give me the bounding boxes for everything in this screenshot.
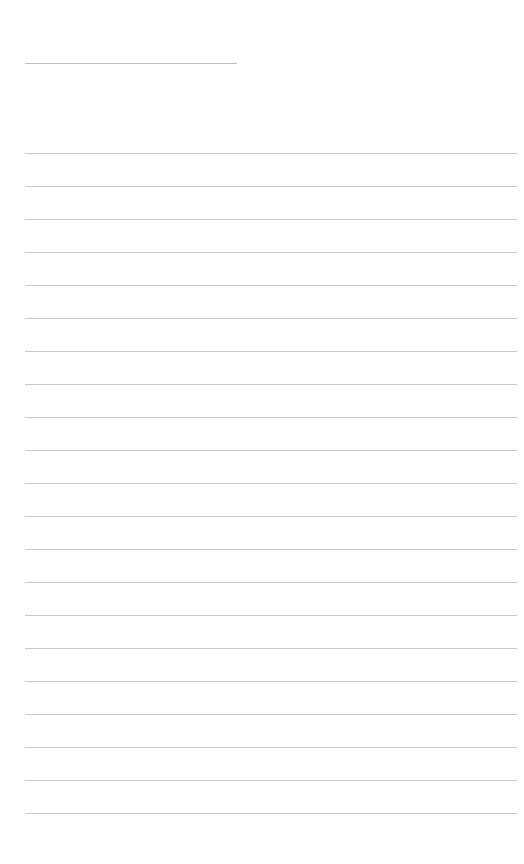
ruled-line [25, 318, 517, 319]
ruled-line [25, 681, 517, 682]
title-rule-line [25, 63, 237, 64]
ruled-line [25, 285, 517, 286]
ruled-line [25, 714, 517, 715]
ruled-line [25, 549, 517, 550]
ruled-line [25, 516, 517, 517]
ruled-line [25, 483, 517, 484]
ruled-line [25, 582, 517, 583]
ruled-line [25, 747, 517, 748]
ruled-line [25, 219, 517, 220]
ruled-line [25, 252, 517, 253]
ruled-line [25, 450, 517, 451]
ruled-line [25, 186, 517, 187]
ruled-line [25, 351, 517, 352]
lined-paper-page [0, 0, 524, 864]
ruled-line [25, 780, 517, 781]
ruled-line [25, 813, 517, 814]
ruled-line [25, 384, 517, 385]
ruled-line [25, 615, 517, 616]
ruled-line [25, 153, 517, 154]
ruled-line [25, 648, 517, 649]
ruled-line [25, 417, 517, 418]
